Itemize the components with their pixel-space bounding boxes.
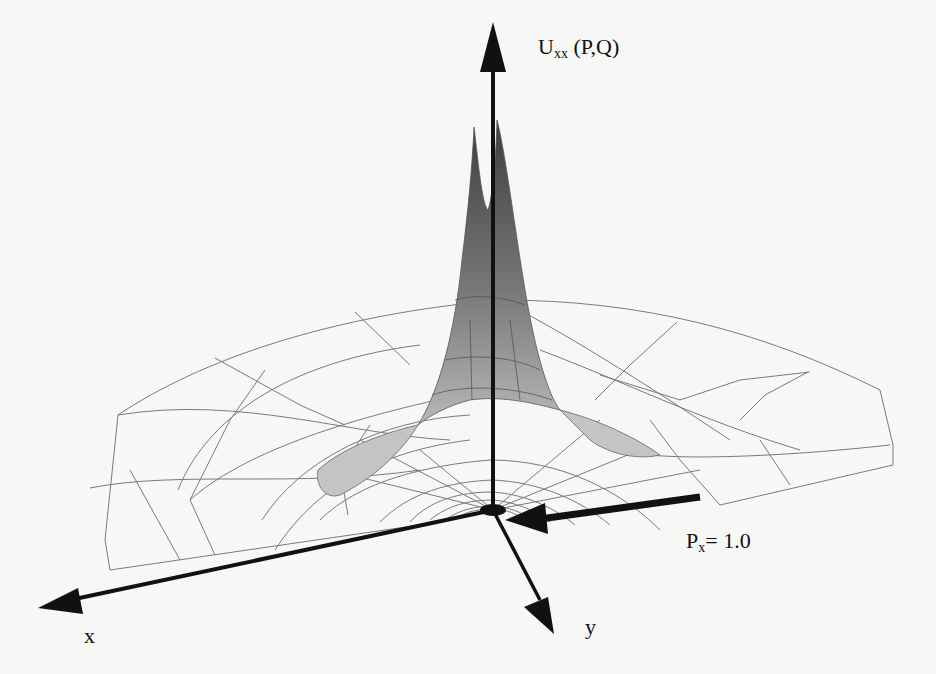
load-label: Px= 1.0 bbox=[686, 530, 751, 555]
ridge-right bbox=[560, 410, 660, 457]
vertical-axis-arrowhead bbox=[480, 22, 506, 72]
load-arrow-shaft bbox=[540, 497, 700, 519]
ridge-left bbox=[317, 425, 418, 496]
diagram-canvas: Uxx (P,Q) Px= 1.0 x y bbox=[0, 0, 936, 674]
vertical-axis-label: Uxx (P,Q) bbox=[538, 36, 619, 61]
central-peak bbox=[418, 120, 560, 425]
x-axis bbox=[70, 510, 493, 600]
x-axis-label: x bbox=[84, 625, 95, 647]
origin-point bbox=[480, 504, 506, 516]
y-axis-label: y bbox=[585, 616, 596, 638]
y-axis-arrowhead bbox=[524, 597, 554, 634]
surface-plot bbox=[0, 0, 936, 674]
x-axis-arrowhead bbox=[38, 588, 83, 614]
